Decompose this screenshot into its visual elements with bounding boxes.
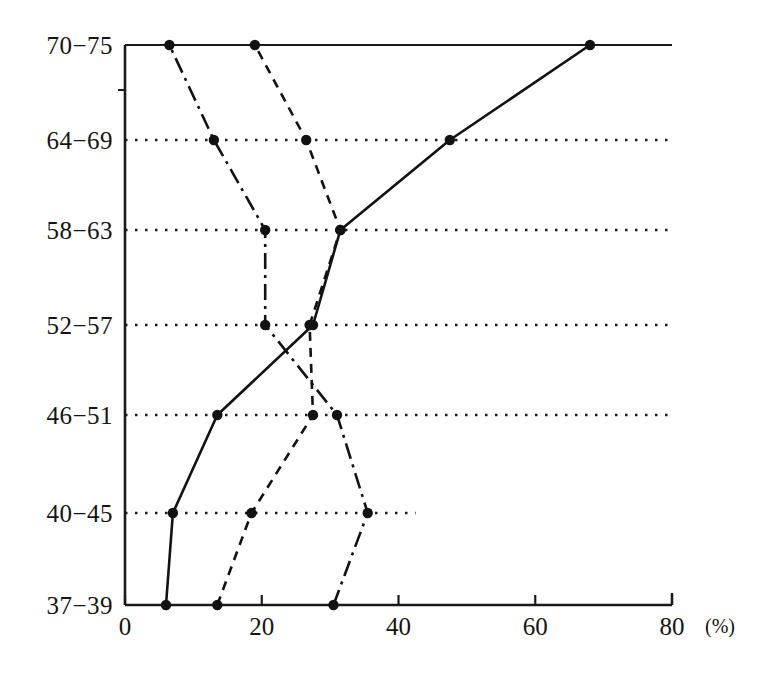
- data-point: [308, 410, 318, 420]
- x-tick-text-0: 0: [119, 613, 132, 640]
- data-point: [246, 508, 256, 518]
- data-point: [212, 600, 222, 610]
- data-point: [260, 320, 270, 330]
- chart-canvas: 70−7564−6958−6352−5746−5140−4537−3902040…: [0, 0, 780, 680]
- x-axis-unit-text: (%): [705, 615, 735, 638]
- data-point: [212, 410, 222, 420]
- data-point: [209, 135, 219, 145]
- x-tick-text-20: 20: [249, 613, 274, 640]
- data-point: [363, 508, 373, 518]
- data-point: [168, 508, 178, 518]
- data-point: [332, 410, 342, 420]
- data-point: [301, 135, 311, 145]
- data-point: [161, 600, 171, 610]
- data-point: [260, 225, 270, 235]
- x-tick-text-80: 80: [660, 613, 685, 640]
- y-tick-text-70-75: 70−75: [46, 32, 113, 59]
- y-tick-text-52-57: 52−57: [46, 312, 113, 339]
- y-tick-text-40-45: 40−45: [46, 500, 113, 527]
- x-tick-text-60: 60: [523, 613, 548, 640]
- data-point: [445, 135, 455, 145]
- data-point: [328, 600, 338, 610]
- data-point: [585, 40, 595, 50]
- data-point: [335, 225, 345, 235]
- data-point: [164, 40, 174, 50]
- y-tick-text-46-51: 46−51: [46, 402, 113, 429]
- data-point: [250, 40, 260, 50]
- data-point: [304, 320, 314, 330]
- y-tick-text-64-69: 64−69: [46, 127, 113, 154]
- chart-figure: 70−7564−6958−6352−5746−5140−4537−3902040…: [0, 0, 780, 680]
- y-tick-text-37-39: 37−39: [46, 592, 113, 619]
- y-tick-text-58-63: 58−63: [46, 217, 113, 244]
- x-tick-text-40: 40: [386, 613, 411, 640]
